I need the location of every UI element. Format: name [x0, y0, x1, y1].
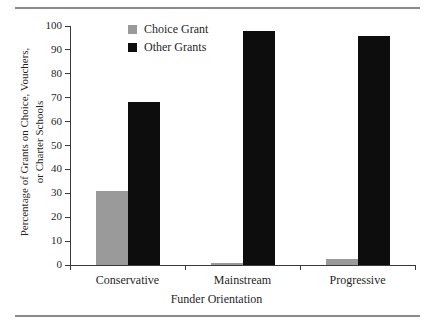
x-tick-mark	[70, 265, 71, 270]
y-tick-label: 90	[51, 42, 62, 57]
y-axis-line	[70, 26, 71, 265]
legend-item-other-grants: Other Grants	[128, 40, 208, 54]
x-tick-mark	[415, 265, 416, 270]
y-tick-label: 50	[51, 138, 62, 153]
y-tick-mark	[65, 26, 70, 27]
y-tick-label: 60	[51, 114, 62, 129]
y-tick-label: 80	[51, 66, 62, 81]
y-tick-mark	[65, 217, 70, 218]
bar-progressive-other-grants	[358, 36, 390, 265]
legend-swatch-icon	[128, 43, 137, 52]
x-axis-line	[70, 265, 415, 266]
y-tick-label: 40	[51, 161, 62, 176]
y-tick-mark	[65, 121, 70, 122]
y-tick-mark	[65, 73, 70, 74]
legend-label: Other Grants	[144, 40, 206, 54]
chart-legend: Choice GrantOther Grants	[128, 22, 208, 54]
y-tick-mark	[65, 169, 70, 170]
x-category-label-conservative: Conservative	[70, 272, 185, 288]
y-tick-mark	[65, 193, 70, 194]
y-axis-title-line-1: Percentage of Grants on Choice, Vouchers…	[18, 48, 30, 237]
y-tick-label: 70	[51, 90, 62, 105]
y-tick-label: 30	[51, 185, 62, 200]
x-category-label-progressive: Progressive	[300, 272, 415, 288]
x-axis-title: Funder Orientation	[0, 292, 433, 307]
legend-item-choice-grant: Choice Grant	[128, 22, 208, 36]
y-tick-mark	[65, 97, 70, 98]
bar-chart-figure: 0102030405060708090100 ConservativeMains…	[0, 0, 433, 328]
y-tick-label: 0	[57, 257, 63, 272]
y-axis-title-line-2: or Charter Schools	[33, 101, 45, 183]
bar-mainstream-other-grants	[243, 31, 275, 265]
bar-mainstream-choice-grant	[211, 263, 243, 265]
y-tick-mark	[65, 49, 70, 50]
x-tick-mark	[300, 265, 301, 270]
y-tick-mark	[65, 145, 70, 146]
legend-label: Choice Grant	[144, 22, 208, 36]
bar-conservative-other-grants	[128, 102, 160, 265]
legend-swatch-icon	[128, 25, 137, 34]
y-tick-label: 20	[51, 209, 62, 224]
y-axis-title: Percentage of Grants on Choice, Vouchers…	[16, 17, 48, 267]
x-category-label-mainstream: Mainstream	[185, 272, 300, 288]
bar-progressive-choice-grant	[326, 259, 358, 265]
bar-conservative-choice-grant	[96, 191, 128, 265]
x-tick-mark	[185, 265, 186, 270]
bottom-divider-rule	[15, 315, 420, 317]
y-tick-label: 10	[51, 233, 62, 248]
top-divider-rule	[15, 7, 420, 9]
y-tick-mark	[65, 241, 70, 242]
